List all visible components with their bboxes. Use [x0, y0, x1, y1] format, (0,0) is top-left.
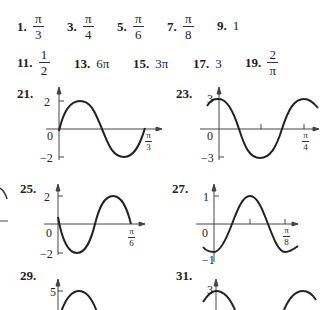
edge-fragment	[0, 0, 328, 310]
